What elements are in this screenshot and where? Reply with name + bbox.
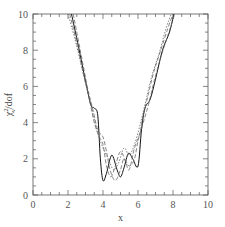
y-tick-label: 6 — [23, 81, 28, 92]
y-tick-label: 8 — [23, 45, 28, 56]
x-tick-label: 0 — [31, 199, 36, 210]
x-tick-label: 4 — [101, 199, 106, 210]
series-dashed-1 — [70, 14, 173, 177]
x-axis-label: x — [118, 212, 123, 223]
chi-square-plot: 02468100246810 x χ2ν/dof — [0, 0, 225, 227]
y-axis-label-text: χ2ν/dof — [2, 92, 17, 117]
series-dotted — [68, 14, 171, 170]
y-tick-label: 4 — [23, 117, 28, 128]
series-solid — [72, 14, 174, 181]
x-tick-label: 6 — [136, 199, 141, 210]
tick-labels: 02468100246810 — [18, 9, 213, 211]
plot-frame — [33, 14, 208, 195]
x-tick-label: 8 — [171, 199, 176, 210]
x-tick-label: 2 — [66, 199, 71, 210]
y-tick-label: 2 — [23, 153, 28, 164]
axis-ticks — [33, 14, 208, 195]
y-axis-label: χ2ν/dof — [2, 92, 17, 117]
x-tick-label: 10 — [203, 199, 213, 210]
y-tick-label: 10 — [18, 9, 28, 20]
y-tick-label: 0 — [23, 190, 28, 201]
data-series — [68, 14, 175, 181]
